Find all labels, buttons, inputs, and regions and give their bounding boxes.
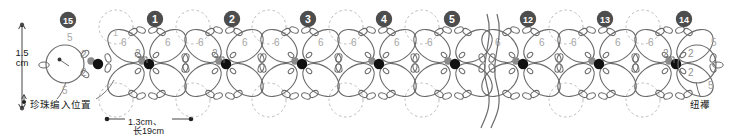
pearl-circles-bottom [99,83,660,117]
step-marker-text: 1 [152,13,158,25]
step-marker-2: 2 [224,11,240,27]
stitch-number-2-upper: 2 [81,49,87,60]
step-marker-15: 15 [60,12,76,28]
step-marker-group: 1512345121314 [60,11,692,28]
total-length-label: 长19cm [133,124,164,137]
step-marker-13: 13 [597,11,613,27]
step-marker-text: 12 [523,15,533,25]
svg-text:5: 5 [708,80,714,91]
pearl-position-label: 珍珠编入位置 [30,97,91,111]
stitch-number-5-top: 5 [67,32,73,43]
step-marker-text: 5 [449,13,455,25]
height-measure-label: 1.5 cm [5,48,39,68]
step-marker-text: 15 [63,16,73,26]
svg-text:6: 6 [571,37,577,48]
svg-text:6: 6 [165,37,171,48]
step-marker-text: 13 [600,15,610,25]
button-loop-label: 纽襻 [690,97,710,111]
step-marker-text: 4 [381,13,387,25]
step-marker-text: 2 [229,13,235,25]
svg-text:6: 6 [539,37,545,48]
svg-text:6: 6 [198,37,204,48]
pattern-diagram-canvas: 5 5 2 2 [0,0,740,137]
stitch-number-2-lower: 2 [81,67,87,78]
step-marker-5: 5 [444,11,460,27]
svg-text:6: 6 [242,37,248,48]
step-marker-1: 1 [147,11,163,27]
svg-text:2: 2 [688,48,694,59]
motif-chain [102,23,720,104]
svg-text:6: 6 [274,37,280,48]
tatting-pattern-svg: 5 5 2 2 [0,0,740,137]
height-measure-unit: cm [5,58,39,68]
start-ring: 5 5 2 2 [39,32,103,99]
svg-text:6: 6 [351,37,357,48]
step-marker-text: 14 [679,15,689,25]
svg-text:6: 6 [648,37,654,48]
step-marker-4: 4 [376,11,392,27]
svg-text:1: 1 [113,28,118,38]
step-marker-3: 3 [300,11,316,27]
svg-text:6: 6 [394,37,400,48]
step-marker-12: 12 [520,11,536,27]
svg-text:5: 5 [711,37,717,48]
svg-text:2: 2 [688,67,694,78]
svg-text:6: 6 [427,37,433,48]
svg-text:6: 6 [121,37,127,48]
svg-text:6: 6 [318,37,324,48]
step-marker-14: 14 [676,11,692,27]
step-marker-text: 3 [305,13,311,25]
end-ring-button-loop: 5 5 2 2 [678,37,723,96]
stitch-number-5-bottom: 5 [62,85,68,96]
svg-text:6: 6 [615,37,621,48]
